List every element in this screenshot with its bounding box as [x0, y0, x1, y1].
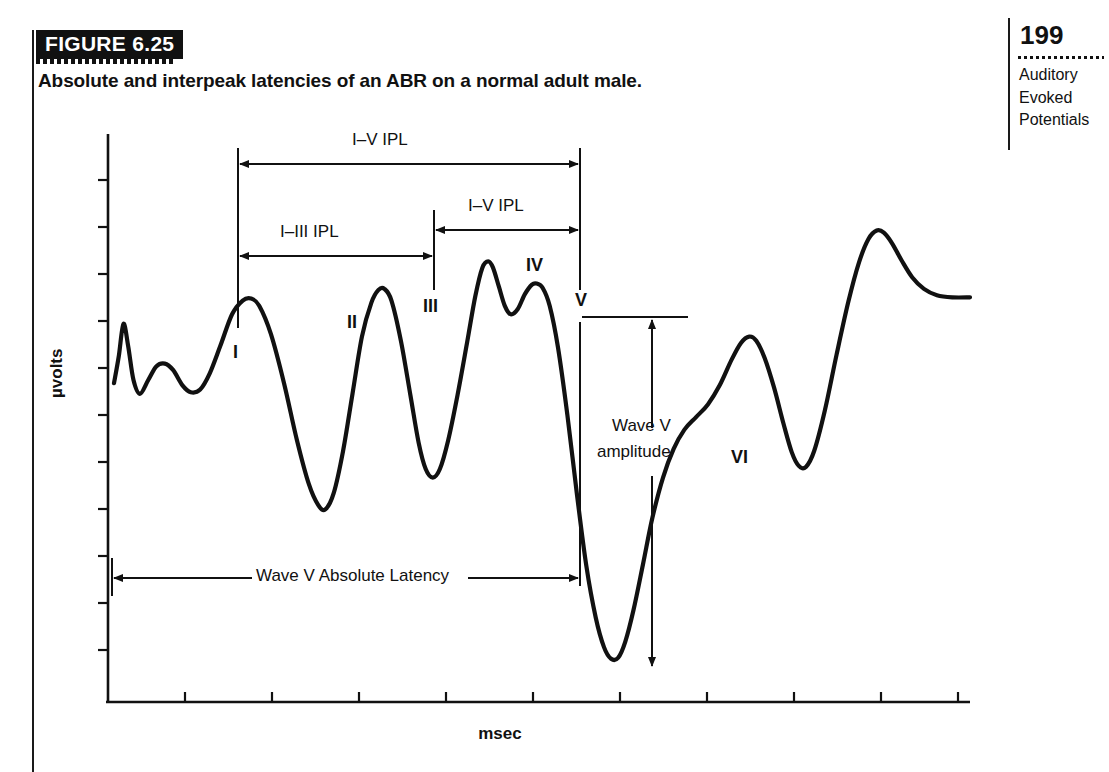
figure-caption: Absolute and interpeak latencies of an A… [38, 70, 642, 92]
abr-waveform-chart: I–V IPL I–V IPL I–III IPL I II III IV V … [40, 110, 1000, 760]
figure-page: FIGURE 6.25 Absolute and interpeak laten… [0, 0, 1109, 772]
abr-waveform-trace [114, 230, 970, 660]
x-axis-ticks [185, 692, 958, 702]
label-ipl-i-iii: I–III IPL [280, 222, 339, 242]
running-head-line-3: Potentials [1019, 109, 1089, 132]
chart-axes [106, 134, 970, 702]
label-wave-v-amplitude-line2: amplitude [597, 442, 671, 462]
running-head-line-1: Auditory [1019, 64, 1089, 87]
peak-label-v: V [575, 290, 587, 311]
folio-dotted-divider [1018, 56, 1104, 59]
y-axis-label: µvolts [47, 349, 67, 398]
running-head: Auditory Evoked Potentials [1019, 64, 1089, 132]
label-ipl-iv-v: I–V IPL [468, 196, 524, 216]
peak-label-iv: IV [526, 255, 543, 276]
y-axis-ticks [98, 180, 108, 650]
running-head-line-2: Evoked [1019, 87, 1089, 110]
peak-label-vi: VI [731, 447, 748, 468]
peak-label-iii: III [423, 296, 438, 317]
figure-badge-torn-edge [36, 58, 175, 64]
figure-number-badge: FIGURE 6.25 [36, 30, 183, 59]
x-axis-label: msec [0, 724, 1000, 744]
margin-rule [1008, 18, 1010, 150]
page-number: 199 [1020, 20, 1063, 51]
label-wave-v-amplitude-line1: Wave V [612, 416, 671, 436]
label-ipl-i-v-top: I–V IPL [352, 130, 408, 150]
peak-label-i: I [233, 342, 238, 363]
peak-label-ii: II [347, 312, 357, 333]
label-wave-v-absolute-latency: Wave V Absolute Latency [256, 566, 449, 586]
page-left-rule [32, 30, 34, 772]
